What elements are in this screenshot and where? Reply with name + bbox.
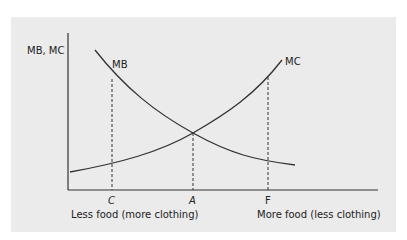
tick-label-a: A: [189, 196, 196, 206]
chart-svg: [0, 0, 407, 240]
y-axis-label: MB, MC: [27, 46, 64, 56]
x-axis-left-label: Less food (more clothing): [71, 210, 198, 220]
mc-curve-label: MC: [285, 57, 301, 67]
x-axis-right-label: More food (less clothing): [257, 210, 381, 220]
tick-label-f: F: [265, 196, 271, 206]
mc-curve: [70, 60, 282, 172]
mb-curve-label: MB: [112, 60, 128, 70]
tick-label-c: C: [108, 196, 115, 206]
